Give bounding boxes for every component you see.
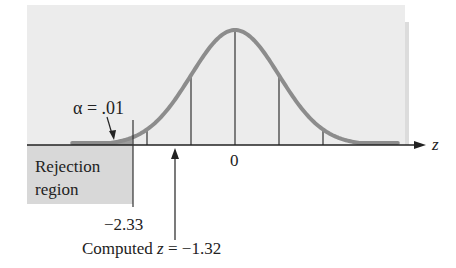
plot-panel [27, 5, 405, 145]
computed-z-label: Computed z = −1.32 [82, 239, 221, 258]
zero-tick-label: 0 [230, 151, 239, 170]
z-axis-arrowhead [414, 141, 426, 149]
rejection-label-line1: Rejection [35, 157, 101, 176]
panel-shadow [405, 22, 409, 145]
rejection-label-line2: region [35, 180, 79, 199]
alpha-label: α = .01 [73, 98, 124, 118]
critical-value-label: −2.33 [104, 215, 143, 234]
z-axis-label: z [431, 135, 439, 154]
normal-distribution-figure: z α = .01 0 Rejection region −2.33 Compu… [0, 0, 456, 268]
computed-z-arrowhead [171, 148, 179, 159]
